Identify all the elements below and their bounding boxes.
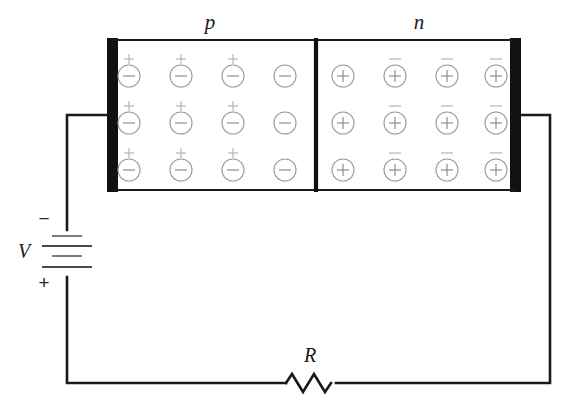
carrier-cell [274,65,296,87]
resistor-label: R [303,344,316,366]
pn-junction-circuit-svg: p n [0,0,578,407]
carrier-cell [274,112,296,134]
wire-left-lower [67,277,286,383]
carrier-cell [332,65,354,87]
battery-positive-terminal-label: + [38,272,49,293]
carrier-cell [332,112,354,134]
circuit-diagram-canvas: p n [0,0,578,407]
battery-negative-terminal-label: − [38,208,49,229]
battery-label: V [18,240,33,262]
resistor-symbol [286,374,331,392]
carrier-cell [274,159,296,181]
p-region-label: p [203,10,216,34]
left-electrode [107,38,118,192]
n-region-label: n [414,10,425,34]
battery-symbol [42,236,92,267]
carrier-cell [332,159,354,181]
wire-left-upper [67,115,112,230]
right-electrode [510,38,521,192]
